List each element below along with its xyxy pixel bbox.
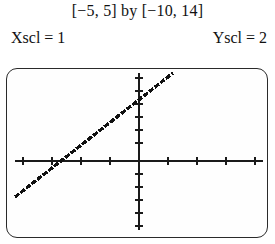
xscl-label: Xscl = 1 (11, 27, 65, 48)
plotted-line (15, 73, 173, 197)
viewing-window-range: [−5, 5] by [−10, 14] (0, 1, 275, 21)
scale-settings-row: Xscl = 1 Yscl = 2 (0, 27, 275, 49)
coordinate-plane (7, 69, 268, 238)
yscl-label: Yscl = 2 (213, 27, 267, 48)
graph-caption: [−5, 5] by [−10, 14] Xscl = 1 Yscl = 2 (0, 0, 275, 62)
calculator-screen (6, 68, 268, 238)
